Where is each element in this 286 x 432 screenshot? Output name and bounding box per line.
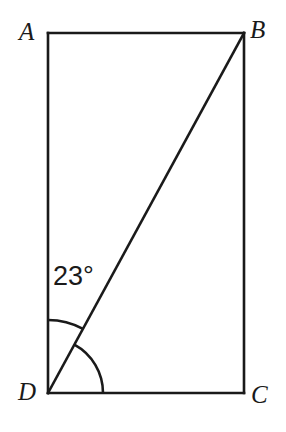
angle-arc-bda (48, 320, 83, 329)
angle-measure-label-bda: 23° (53, 263, 94, 290)
vertex-label-d: D (18, 379, 36, 404)
geometry-figure: A B C D 23° (0, 0, 286, 432)
vertex-label-a: A (19, 19, 34, 44)
vertex-label-c: C (251, 382, 268, 407)
angle-arc-bdc (74, 345, 103, 393)
diagonal-db (48, 33, 244, 393)
vertex-label-b: B (250, 17, 265, 42)
geometry-canvas (0, 0, 286, 432)
